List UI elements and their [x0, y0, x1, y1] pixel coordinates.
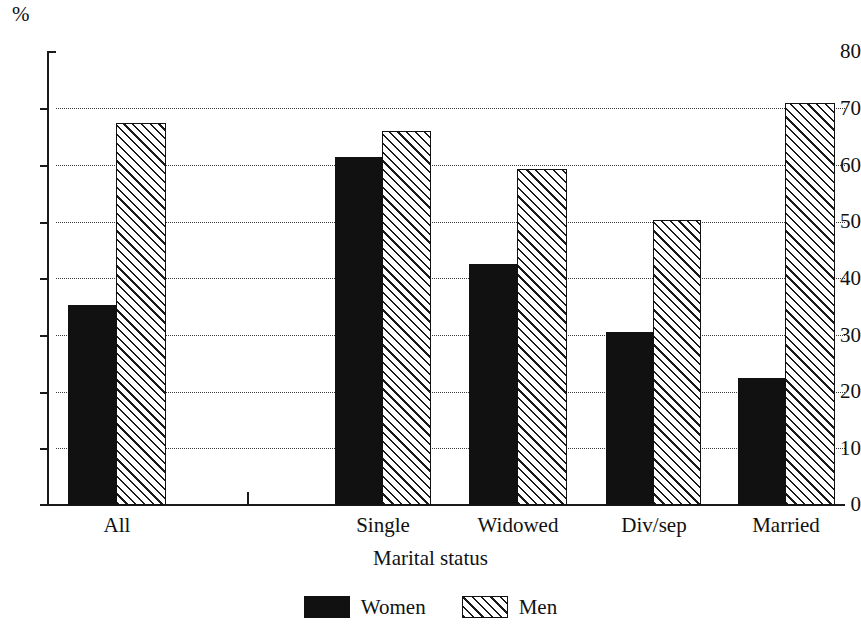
legend-item-men: Men [462, 596, 558, 618]
x-axis-line [47, 504, 845, 506]
legend-swatch-women-icon [304, 596, 350, 618]
chart-legend: Women Men [0, 596, 861, 618]
y-axis-tick-30 [40, 335, 49, 337]
x-axis-label-divsep: Div/sep [604, 513, 704, 537]
gridline-60 [56, 165, 845, 166]
x-axis-separator-tick [247, 492, 249, 505]
bar-women-widowed [469, 264, 517, 505]
bar-chart: % 80 70 60 50 40 30 20 10 0 All Single W… [0, 0, 861, 639]
x-axis-label-all: All [67, 513, 167, 537]
bar-men-widowed [517, 169, 567, 505]
y-axis-tick-20 [40, 392, 49, 394]
y-axis-tick-50 [40, 222, 49, 224]
bar-women-married [738, 378, 785, 505]
gridline-70 [56, 108, 845, 109]
gridline-40 [56, 278, 845, 279]
bar-men-divsep [653, 220, 701, 505]
x-axis-label-single: Single [333, 513, 433, 537]
y-axis-tick-40 [40, 278, 49, 280]
bar-women-single [335, 157, 382, 505]
y-axis-tick-70 [40, 108, 49, 110]
gridline-30 [56, 335, 845, 336]
x-axis-label-widowed: Widowed [468, 513, 568, 537]
bar-men-single [382, 131, 431, 505]
bar-men-married [785, 103, 835, 505]
gridline-50 [56, 222, 845, 223]
bar-women-divsep [606, 332, 653, 505]
legend-label-women: Women [361, 596, 426, 618]
y-axis-tick-0 [40, 504, 49, 506]
legend-item-women: Women [304, 596, 426, 618]
legend-label-men: Men [519, 596, 558, 618]
y-axis-label-80: 80 [819, 41, 861, 62]
gridline-10 [56, 448, 845, 449]
y-axis-tick-80 [47, 51, 56, 53]
x-axis-label-married: Married [736, 513, 836, 537]
bar-women-all [68, 305, 116, 505]
y-axis-tick-10 [40, 448, 49, 450]
legend-swatch-men-icon [462, 596, 508, 618]
x-axis-title: Marital status [0, 546, 861, 570]
y-axis-tick-60 [40, 165, 49, 167]
gridline-20 [56, 392, 845, 393]
bar-men-all [116, 123, 166, 505]
y-axis-unit-label: % [12, 4, 30, 25]
